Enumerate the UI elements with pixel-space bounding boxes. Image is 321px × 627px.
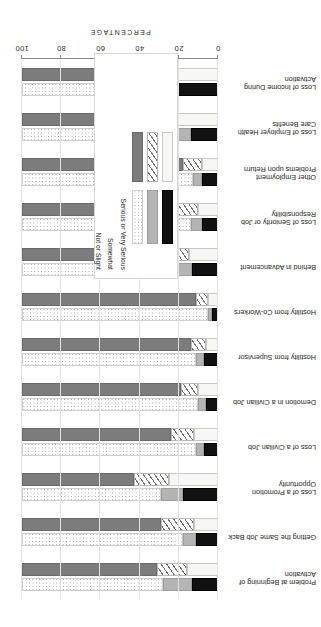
bar-segment: [22, 578, 163, 591]
bar-segment: [22, 338, 191, 351]
x-tick: [21, 55, 22, 59]
bar-segment: [202, 173, 218, 186]
bar-segment: [193, 578, 218, 591]
bar-segment: [22, 473, 134, 486]
anticipated-bar: [22, 338, 218, 351]
category-label: Hostility from Supervisor: [224, 353, 316, 361]
category-label: Loss of Income During Activation: [224, 75, 316, 92]
actual-bar: [22, 308, 218, 321]
category-label: Problem at Beginning of Activation: [224, 570, 316, 587]
bar-segment: [193, 263, 218, 276]
bar-segment: [196, 293, 208, 306]
actual-bar: [22, 578, 218, 591]
bar-segment: [191, 128, 218, 141]
bar-segment: [196, 353, 204, 366]
x-tick-label: 100: [15, 44, 29, 53]
x-axis-title: PERCENTAGE: [22, 29, 218, 36]
bar-segment: [22, 563, 157, 576]
bar-segment: [198, 383, 218, 396]
legend-swatch-actual-serious: [162, 190, 173, 244]
bar-segment: [22, 398, 198, 411]
anticipated-bar: [22, 293, 218, 306]
bar-segment: [204, 353, 218, 366]
actual-bar: [22, 398, 218, 411]
category-row: Hostility from Supervisor: [22, 329, 218, 374]
bar-segment: [22, 308, 208, 321]
actual-bar: [22, 353, 218, 366]
bar-segment: [189, 248, 218, 261]
bar-segment: [175, 113, 218, 126]
bar-segment: [204, 443, 218, 456]
bar-segment: [196, 533, 218, 546]
bar-segment: [169, 473, 218, 486]
legend-swatch-actual-somewhat: [147, 190, 158, 244]
category-row: Problem at Beginning of Activation: [22, 554, 218, 599]
category-row: Loss of a Promotion Opportunity: [22, 464, 218, 509]
legend-label-serious: Serious or Very Serious: [120, 199, 127, 270]
actual-bar: [22, 488, 218, 501]
bar-segment: [194, 518, 218, 531]
bar-segment: [157, 563, 186, 576]
category-label: Demotion in a Civilian Job: [224, 398, 316, 406]
x-tick: [217, 55, 218, 59]
anticipated-bar: [22, 518, 218, 531]
bar-segment: [183, 488, 218, 501]
x-tick: [60, 55, 61, 59]
legend-swatch-anticipated-serious: [162, 132, 173, 182]
bar-segment: [202, 158, 218, 171]
bar-segment: [22, 428, 171, 441]
x-tick-label: 0: [216, 44, 221, 53]
actual-bar: [22, 533, 218, 546]
legend-swatch-anticipated-not: [132, 132, 143, 182]
legend-swatch-actual-not: [132, 190, 143, 244]
category-row: Getting the Same Job Back: [22, 509, 218, 554]
bar-segment: [22, 488, 161, 501]
bar-segment: [193, 173, 203, 186]
bar-segment: [22, 443, 196, 456]
bar-segment: [202, 218, 218, 231]
category-label: Loss of a Civilian Job: [224, 443, 316, 451]
bar-segment: [191, 338, 207, 351]
bar-segment: [208, 308, 212, 321]
gridline: [60, 59, 61, 599]
bar-segment: [22, 293, 196, 306]
rotated-figure-container: Problem at Beginning of ActivationGettin…: [0, 0, 321, 627]
chart-legend: ANTICIPATED ACTUAL Serious or Very Serio…: [94, 53, 178, 279]
bar-segment: [22, 518, 161, 531]
x-tick-label: 60: [96, 44, 105, 53]
bar-segment: [198, 203, 218, 216]
category-row: Loss of a Civilian Job: [22, 419, 218, 464]
category-label: Behind in Advancement: [224, 263, 316, 271]
gridline: [217, 59, 218, 599]
bar-segment: [22, 533, 183, 546]
legend-label-not: Not or Slight: [95, 233, 102, 270]
gridline: [21, 59, 22, 599]
bar-segment: [173, 83, 218, 96]
bar-segment: [183, 158, 203, 171]
bar-segment: [198, 398, 206, 411]
x-tick-label: 40: [135, 44, 144, 53]
category-label: Loss of Employer Health Care Benefits: [224, 120, 316, 137]
bar-segment: [191, 218, 203, 231]
stacked-bar-chart: Problem at Beginning of ActivationGettin…: [0, 0, 321, 627]
category-label: Loss of a Promotion Opportunity: [224, 480, 316, 497]
category-label: Getting the Same Job Back: [224, 533, 316, 541]
anticipated-bar: [22, 383, 218, 396]
bar-segment: [196, 443, 204, 456]
category-row: Demotion in a Civilian Job: [22, 374, 218, 419]
bar-segment: [22, 383, 181, 396]
legend-swatch-anticipated-somewhat: [147, 132, 158, 182]
x-tick-label: 80: [57, 44, 66, 53]
bar-segment: [161, 488, 183, 501]
anticipated-bar: [22, 473, 218, 486]
bar-segment: [194, 428, 218, 441]
bar-segment: [187, 563, 218, 576]
category-label: Other Employment Problems upon Return: [224, 165, 316, 182]
anticipated-bar: [22, 428, 218, 441]
bar-segment: [181, 383, 199, 396]
category-row: Hostility from Co-Workers: [22, 284, 218, 329]
x-tick-label: 20: [174, 44, 183, 53]
bar-segment: [22, 353, 196, 366]
category-label: Loss of Seniority or Job Responsibility: [224, 210, 316, 227]
actual-bar: [22, 443, 218, 456]
